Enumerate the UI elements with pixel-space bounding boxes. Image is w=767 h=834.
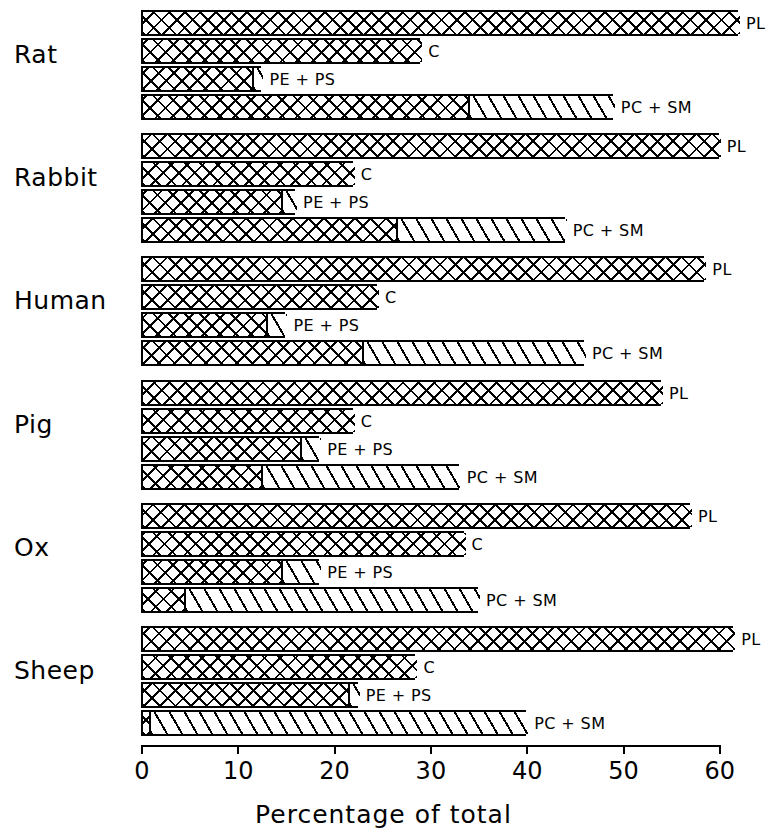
bar-segment-crosshatch bbox=[143, 382, 663, 404]
x-axis-title: Percentage of total bbox=[0, 800, 767, 829]
bar[interactable] bbox=[141, 312, 285, 338]
bar[interactable] bbox=[141, 531, 464, 557]
series-label: PL bbox=[741, 630, 760, 649]
bar-segment-crosshatch bbox=[143, 505, 692, 527]
bar-row: PE + PS bbox=[0, 312, 767, 338]
bar-segment-diagonal bbox=[283, 561, 322, 583]
bar[interactable] bbox=[141, 408, 353, 434]
series-label: PC + SM bbox=[486, 591, 557, 610]
x-axis-tick bbox=[526, 745, 528, 754]
series-label: PC + SM bbox=[592, 344, 663, 363]
series-label: C bbox=[385, 288, 397, 307]
series-label: PL bbox=[712, 260, 731, 279]
bar-segment-crosshatch bbox=[143, 191, 283, 213]
bar-row: PC + SM bbox=[0, 340, 767, 366]
bar[interactable] bbox=[141, 654, 415, 680]
bar-row: PL bbox=[0, 10, 767, 36]
x-axis-tick-label: 20 bbox=[319, 757, 350, 785]
bar-segment-crosshatch bbox=[143, 135, 721, 157]
bar-chart: RatPLCPE + PSPC + SMRabbitPLCPE + PSPC +… bbox=[0, 0, 767, 834]
bar-segment-diagonal bbox=[302, 438, 321, 460]
bar[interactable] bbox=[141, 256, 704, 282]
x-axis-tick-label: 30 bbox=[416, 757, 447, 785]
bar[interactable] bbox=[141, 626, 733, 652]
x-axis-tick bbox=[237, 745, 239, 754]
species-group: HumanPLCPE + PSPC + SM bbox=[0, 256, 767, 366]
series-label: PE + PS bbox=[327, 440, 393, 459]
x-axis-tick-label: 50 bbox=[608, 757, 639, 785]
bar[interactable] bbox=[141, 133, 719, 159]
bar-row: C bbox=[0, 284, 767, 310]
bar-segment-crosshatch bbox=[143, 628, 735, 650]
bar[interactable] bbox=[141, 189, 295, 215]
species-group: RatPLCPE + PSPC + SM bbox=[0, 10, 767, 120]
bar[interactable] bbox=[141, 94, 613, 120]
series-label: PC + SM bbox=[467, 468, 538, 487]
bar-row: PL bbox=[0, 133, 767, 159]
bar-row: PL bbox=[0, 626, 767, 652]
bar-segment-crosshatch bbox=[143, 438, 302, 460]
bar[interactable] bbox=[141, 10, 738, 36]
bar-row: PL bbox=[0, 380, 767, 406]
bar-segment-crosshatch bbox=[143, 314, 268, 336]
series-label: PL bbox=[746, 14, 765, 33]
series-label: PC + SM bbox=[573, 221, 644, 240]
series-label: C bbox=[361, 412, 373, 431]
series-label: C bbox=[428, 42, 440, 61]
bar-segment-diagonal bbox=[263, 466, 460, 488]
bar-segment-crosshatch bbox=[143, 466, 263, 488]
bar-segment-diagonal bbox=[268, 314, 287, 336]
bar-segment-diagonal bbox=[186, 589, 480, 611]
bar-segment-crosshatch bbox=[143, 68, 254, 90]
series-label: PC + SM bbox=[621, 98, 692, 117]
bar-segment-crosshatch bbox=[143, 40, 422, 62]
bar-segment-crosshatch bbox=[143, 219, 398, 241]
bar-segment-crosshatch bbox=[143, 96, 470, 118]
bar[interactable] bbox=[141, 66, 261, 92]
species-group: SheepPLCPE + PSPC + SM bbox=[0, 626, 767, 736]
bar-segment-crosshatch bbox=[143, 286, 379, 308]
bar[interactable] bbox=[141, 503, 690, 529]
series-label: PL bbox=[727, 137, 746, 156]
bar-segment-diagonal bbox=[470, 96, 614, 118]
series-label: PE + PS bbox=[269, 70, 335, 89]
bar-segment-crosshatch bbox=[143, 342, 364, 364]
bar-segment-diagonal bbox=[151, 712, 528, 734]
species-group: RabbitPLCPE + PSPC + SM bbox=[0, 133, 767, 243]
bar[interactable] bbox=[141, 464, 459, 490]
bar-segment-crosshatch bbox=[143, 656, 417, 678]
series-label: PE + PS bbox=[366, 686, 432, 705]
series-label: PL bbox=[669, 384, 688, 403]
bar-row: PE + PS bbox=[0, 436, 767, 462]
bar-row: PE + PS bbox=[0, 189, 767, 215]
bar-segment-diagonal bbox=[254, 68, 264, 90]
bar[interactable] bbox=[141, 38, 420, 64]
bar[interactable] bbox=[141, 710, 526, 736]
bar[interactable] bbox=[141, 217, 565, 243]
bar[interactable] bbox=[141, 559, 319, 585]
series-label: PC + SM bbox=[534, 714, 605, 733]
bar[interactable] bbox=[141, 340, 584, 366]
bar-row: PC + SM bbox=[0, 464, 767, 490]
bar[interactable] bbox=[141, 161, 353, 187]
series-label: PE + PS bbox=[293, 316, 359, 335]
bar-segment-crosshatch bbox=[143, 163, 355, 185]
series-label: PL bbox=[698, 507, 717, 526]
x-axis-tick-label: 60 bbox=[705, 757, 736, 785]
bar-segment-crosshatch bbox=[143, 410, 355, 432]
x-axis-tick-label: 40 bbox=[512, 757, 543, 785]
bar-row: PC + SM bbox=[0, 587, 767, 613]
bar-segment-crosshatch bbox=[143, 258, 706, 280]
bar-row: C bbox=[0, 408, 767, 434]
series-label: C bbox=[472, 535, 484, 554]
bar[interactable] bbox=[141, 380, 661, 406]
bar[interactable] bbox=[141, 682, 358, 708]
bar[interactable] bbox=[141, 284, 377, 310]
species-group: OxPLCPE + PSPC + SM bbox=[0, 503, 767, 613]
bar[interactable] bbox=[141, 436, 319, 462]
bar-segment-diagonal bbox=[364, 342, 585, 364]
bar-row: PC + SM bbox=[0, 710, 767, 736]
bar-row: PL bbox=[0, 256, 767, 282]
species-group: PigPLCPE + PSPC + SM bbox=[0, 380, 767, 490]
bar[interactable] bbox=[141, 587, 478, 613]
